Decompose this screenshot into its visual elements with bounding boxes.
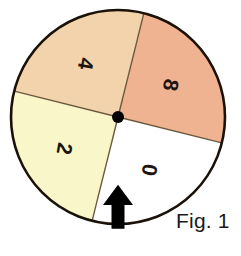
center-pivot-dot — [112, 111, 124, 123]
spinner-diagram: 8 0 2 4 Fig. 1 — [0, 0, 241, 256]
figure-caption: Fig. 1 — [176, 209, 230, 232]
figure-container: 8 0 2 4 Fig. 1 — [0, 0, 241, 256]
